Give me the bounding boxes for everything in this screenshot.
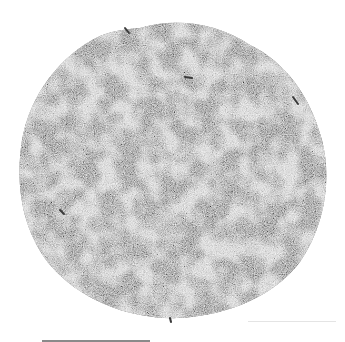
material-pile-photo [0,0,345,342]
faint-line [248,321,336,322]
